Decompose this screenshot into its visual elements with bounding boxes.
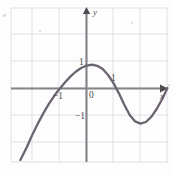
scan-speck — [3, 14, 6, 17]
y-tick-label-one: 1 — [79, 57, 84, 67]
scan-speck — [39, 30, 41, 32]
y-axis-label: y — [92, 7, 97, 17]
scan-speck — [168, 84, 170, 86]
plot-background — [11, 8, 168, 162]
graph-figure-container: y x 0 −1 1 1 −1 — [0, 0, 173, 174]
origin-label: 0 — [89, 90, 94, 100]
scan-speck — [131, 22, 133, 24]
x-tick-label-minus-one: −1 — [53, 91, 63, 101]
y-tick-label-minus-one: −1 — [75, 111, 85, 121]
x-tick-label-one: 1 — [111, 73, 116, 83]
coordinate-graph: y x 0 −1 1 1 −1 — [0, 0, 173, 174]
x-axis-label: x — [159, 91, 164, 101]
